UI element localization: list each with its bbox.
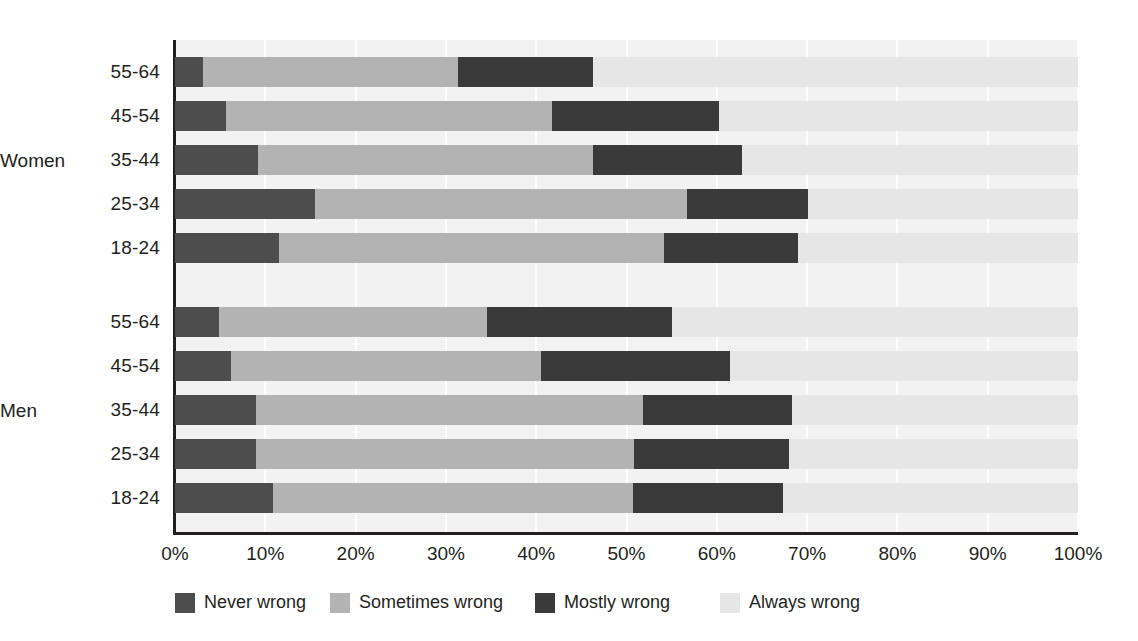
group-label-men: Men — [0, 400, 118, 422]
bar-row — [175, 57, 1078, 87]
bar-segment-always — [789, 439, 1078, 469]
bar-segment-sometimes — [256, 395, 642, 425]
bar-segment-sometimes — [226, 101, 552, 131]
legend-item-never[interactable]: Never wrong — [175, 592, 306, 613]
bar-segment-always — [808, 189, 1078, 219]
category-label: 25-34 — [0, 189, 160, 219]
stacked-bar-chart: 55-6445-5435-4425-3418-2455-6445-5435-44… — [0, 0, 1138, 641]
x-tick-label: 40% — [501, 543, 571, 565]
bar-row — [175, 189, 1078, 219]
bar-segment-always — [783, 483, 1078, 513]
legend-swatch-always-icon — [720, 593, 740, 613]
bar-segment-mostly — [687, 189, 808, 219]
bar-segment-mostly — [633, 483, 783, 513]
bar-segment-always — [593, 57, 1078, 87]
bar-segment-sometimes — [203, 57, 458, 87]
bar-segment-mostly — [634, 439, 789, 469]
bar-row — [175, 351, 1078, 381]
group-label-women: Women — [0, 150, 118, 172]
bar-segment-never — [175, 351, 231, 381]
x-tick-label: 90% — [953, 543, 1023, 565]
legend-swatch-sometimes-icon — [330, 593, 350, 613]
category-label: 45-54 — [0, 351, 160, 381]
legend-item-mostly[interactable]: Mostly wrong — [535, 592, 670, 613]
x-tick-label: 20% — [321, 543, 391, 565]
category-label: 18-24 — [0, 233, 160, 263]
bar-segment-never — [175, 101, 226, 131]
legend-swatch-never-icon — [175, 593, 195, 613]
x-tick-label: 0% — [140, 543, 210, 565]
x-tick-label: 70% — [772, 543, 842, 565]
x-tick-label: 30% — [411, 543, 481, 565]
bar-row — [175, 483, 1078, 513]
bar-row — [175, 307, 1078, 337]
bar-segment-always — [719, 101, 1078, 131]
bar-segment-never — [175, 233, 279, 263]
x-axis-line — [173, 532, 1078, 535]
bar-segment-never — [175, 483, 273, 513]
bar-segment-mostly — [643, 395, 792, 425]
bar-segment-never — [175, 189, 315, 219]
bar-segment-sometimes — [258, 145, 593, 175]
bar-segment-never — [175, 57, 203, 87]
category-label: 18-24 — [0, 483, 160, 513]
legend-swatch-mostly-icon — [535, 593, 555, 613]
bar-row — [175, 233, 1078, 263]
bar-segment-mostly — [458, 57, 593, 87]
legend-item-sometimes[interactable]: Sometimes wrong — [330, 592, 503, 613]
x-tick-label: 80% — [862, 543, 932, 565]
bar-segment-mostly — [552, 101, 719, 131]
bar-segment-sometimes — [231, 351, 541, 381]
bar-segment-never — [175, 439, 256, 469]
x-tick-label: 100% — [1043, 543, 1113, 565]
category-label: 25-34 — [0, 439, 160, 469]
bar-row — [175, 395, 1078, 425]
legend-label: Always wrong — [749, 592, 860, 613]
bar-segment-sometimes — [315, 189, 687, 219]
legend-label: Sometimes wrong — [359, 592, 503, 613]
bar-segment-mostly — [487, 307, 672, 337]
x-tick-label: 50% — [592, 543, 662, 565]
bar-segment-mostly — [541, 351, 731, 381]
bar-segment-never — [175, 395, 256, 425]
bar-segment-sometimes — [279, 233, 664, 263]
bar-segment-sometimes — [273, 483, 633, 513]
category-label: 55-64 — [0, 57, 160, 87]
category-label: 55-64 — [0, 307, 160, 337]
bar-segment-sometimes — [219, 307, 486, 337]
bar-segment-mostly — [664, 233, 799, 263]
bar-segment-always — [742, 145, 1078, 175]
bar-segment-always — [730, 351, 1078, 381]
bar-segment-always — [792, 395, 1078, 425]
x-tick-label: 10% — [230, 543, 300, 565]
legend-label: Never wrong — [204, 592, 306, 613]
chart-legend: Never wrongSometimes wrongMostly wrongAl… — [175, 592, 935, 622]
bar-row — [175, 439, 1078, 469]
bar-segment-never — [175, 145, 258, 175]
legend-label: Mostly wrong — [564, 592, 670, 613]
category-label: 45-54 — [0, 101, 160, 131]
bar-segment-never — [175, 307, 219, 337]
x-tick-label: 60% — [682, 543, 752, 565]
bar-segment-mostly — [593, 145, 742, 175]
bar-segment-always — [798, 233, 1078, 263]
bar-segment-always — [672, 307, 1078, 337]
bar-segment-sometimes — [256, 439, 633, 469]
legend-item-always[interactable]: Always wrong — [720, 592, 860, 613]
bar-row — [175, 145, 1078, 175]
bar-row — [175, 101, 1078, 131]
